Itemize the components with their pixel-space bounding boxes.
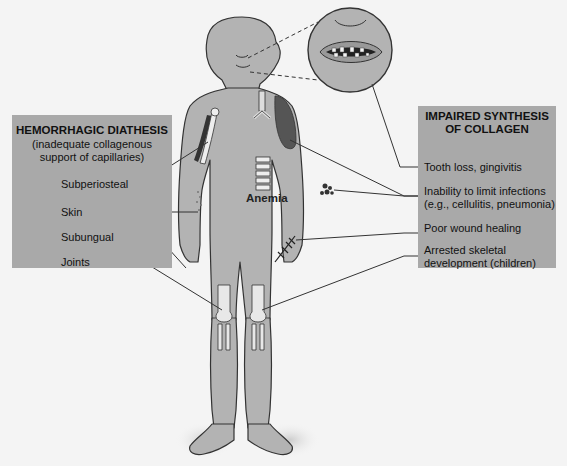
label-skeletal-line-2: development (children) bbox=[424, 257, 536, 269]
cellulitis-patch bbox=[320, 184, 334, 196]
label-skin: Skin bbox=[61, 206, 82, 218]
label-tooth-loss: Tooth loss, gingivitis bbox=[424, 161, 522, 173]
label-subungual: Subungual bbox=[61, 231, 114, 243]
mouth-inset bbox=[308, 8, 392, 92]
label-infections-line-1: Inability to limit infections bbox=[424, 185, 546, 197]
box-subtitle-line-1: (inadequate collagenous bbox=[12, 138, 172, 150]
hemorrhagic-diathesis-box: HEMORRHAGIC DIATHESIS (inadequate collag… bbox=[12, 115, 172, 268]
label-wound-healing: Poor wound healing bbox=[424, 222, 521, 234]
label-subperiosteal: Subperiosteal bbox=[61, 178, 128, 190]
label-anemia: Anemia bbox=[246, 192, 288, 204]
box-title-line-1: IMPAIRED SYNTHESIS bbox=[418, 110, 556, 123]
spine bbox=[256, 157, 270, 190]
label-skeletal-line-1: Arrested skeletal bbox=[424, 244, 506, 256]
label-infections-line-2: (e.g., cellulitis, pneumonia) bbox=[424, 198, 555, 210]
box-subtitle-line-2: support of capillaries) bbox=[12, 151, 172, 163]
label-joints: Joints bbox=[61, 256, 90, 268]
body-silhouette bbox=[179, 17, 304, 455]
box-title-line-2: OF COLLAGEN bbox=[418, 123, 556, 136]
box-title: HEMORRHAGIC DIATHESIS bbox=[12, 124, 172, 137]
knee-joints bbox=[212, 285, 270, 350]
